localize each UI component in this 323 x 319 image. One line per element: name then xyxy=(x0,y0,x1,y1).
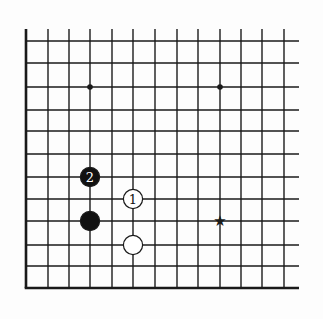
black-stone xyxy=(80,211,99,230)
stone-move-number: 1 xyxy=(129,192,137,207)
stone-move-number: 2 xyxy=(86,170,94,185)
markers: ★ xyxy=(213,212,226,230)
hoshi-point xyxy=(217,84,223,90)
white-stone: 1 xyxy=(123,189,142,208)
go-board: ★ 21 xyxy=(0,0,323,319)
grid-lines xyxy=(25,29,299,288)
black-stone: 2 xyxy=(80,167,99,186)
star-marker-icon: ★ xyxy=(213,212,226,230)
hoshi-point xyxy=(87,84,93,90)
white-stone xyxy=(123,235,142,254)
